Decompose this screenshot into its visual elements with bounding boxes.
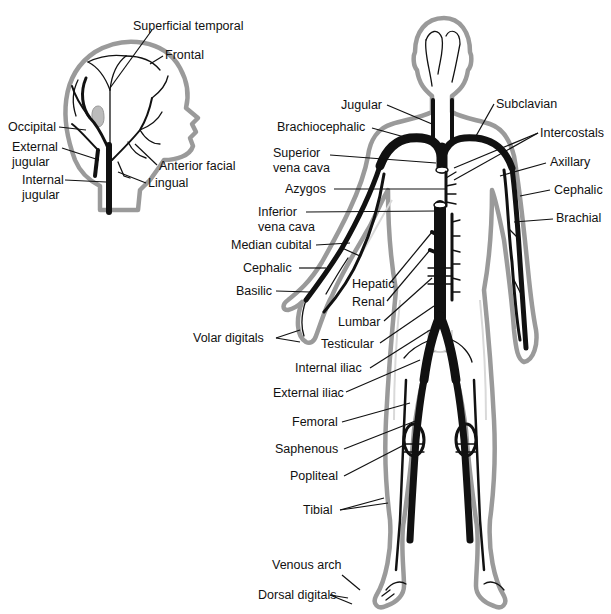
label-brachial: Brachial xyxy=(556,211,601,225)
label-occipital: Occipital xyxy=(8,120,56,134)
label-testicular: Testicular xyxy=(321,337,374,351)
venous-system-diagram: Superficial temporal Frontal Occipital E… xyxy=(0,0,611,614)
label-cephalic-arm: Cephalic xyxy=(554,183,603,197)
label-volar-digitals: Volar digitals xyxy=(193,331,264,345)
label-frontal: Frontal xyxy=(165,48,204,62)
label-external-jugular: External xyxy=(12,140,58,154)
label-popliteal: Popliteal xyxy=(290,469,338,483)
label-axillary: Axillary xyxy=(550,155,591,169)
label-lumbar: Lumbar xyxy=(338,315,380,329)
label-inferior-vena-cava: Inferior xyxy=(258,205,297,219)
label-cephalic-forearm: Cephalic xyxy=(243,261,292,275)
label-internal-jugular-line2: jugular xyxy=(21,188,60,202)
label-external-iliac: External iliac xyxy=(273,386,344,400)
label-brachiocephalic: Brachiocephalic xyxy=(277,120,365,134)
label-external-jugular-line2: jugular xyxy=(11,155,50,169)
label-hepatic: Hepatic xyxy=(352,277,394,291)
label-subclavian: Subclavian xyxy=(496,97,557,111)
label-intercostals: Intercostals xyxy=(540,126,604,140)
label-internal-iliac: Internal iliac xyxy=(295,361,362,375)
label-saphenous: Saphenous xyxy=(275,442,338,456)
label-median-cubital: Median cubital xyxy=(231,238,312,252)
label-lingual: Lingual xyxy=(148,176,188,190)
label-basilic: Basilic xyxy=(236,284,272,298)
label-venous-arch: Venous arch xyxy=(272,558,342,572)
label-dorsal-digitals: Dorsal digitals xyxy=(258,588,337,602)
label-superior-vena-cava: Superior xyxy=(273,146,320,160)
label-internal-jugular: Internal xyxy=(22,173,64,187)
label-superior-vena-cava-line2: vena cava xyxy=(273,161,330,175)
label-anterior-facial: Anterior facial xyxy=(159,159,235,173)
label-tibial: Tibial xyxy=(303,503,332,517)
label-jugular: Jugular xyxy=(341,98,382,112)
label-inferior-vena-cava-line2: vena cava xyxy=(258,220,315,234)
label-superficial-temporal: Superficial temporal xyxy=(133,19,243,33)
label-femoral: Femoral xyxy=(292,415,338,429)
label-renal: Renal xyxy=(352,295,385,309)
label-azygos: Azygos xyxy=(285,182,326,196)
